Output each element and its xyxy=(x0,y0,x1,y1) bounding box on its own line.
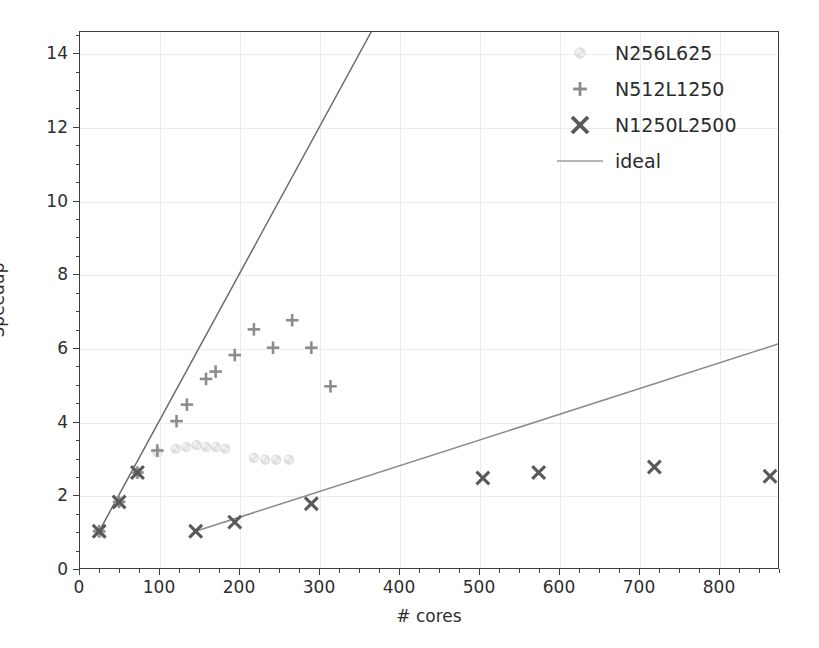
x-tick-major xyxy=(319,569,320,575)
legend-marker-plus xyxy=(545,76,615,102)
series-dot xyxy=(94,440,294,538)
x-tick-minor xyxy=(359,569,360,573)
x-tick-major xyxy=(719,569,720,575)
legend-label: N1250L2500 xyxy=(615,114,737,136)
y-tick-major xyxy=(73,348,79,349)
x-tick-label: 700 xyxy=(623,577,655,597)
y-axis-title: Speedup xyxy=(0,263,8,338)
y-tick-label: 4 xyxy=(28,412,68,432)
x-tick-minor xyxy=(519,569,520,573)
x-tick-label: 100 xyxy=(143,577,175,597)
chart-legend: N256L625N512L1250N1250L2500ideal xyxy=(545,40,737,174)
y-tick-major xyxy=(73,422,79,423)
y-tick-minor xyxy=(76,532,80,533)
y-tick-label: 6 xyxy=(28,338,68,358)
y-tick-minor xyxy=(76,403,80,404)
x-tick-minor xyxy=(699,569,700,573)
marker-plus xyxy=(200,373,213,386)
x-axis-title: # cores xyxy=(396,606,461,626)
x-tick-minor xyxy=(219,569,220,573)
marker-cross xyxy=(572,117,588,133)
x-tick-major xyxy=(559,569,560,575)
y-tick-major xyxy=(73,495,79,496)
marker-dot xyxy=(191,440,201,450)
y-tick-label: 10 xyxy=(28,191,68,211)
y-tick-major xyxy=(73,274,79,275)
marker-plus xyxy=(305,341,318,354)
y-tick-minor xyxy=(76,385,80,386)
x-tick-label: 500 xyxy=(463,577,495,597)
x-tick-minor xyxy=(759,569,760,573)
x-tick-minor xyxy=(779,569,780,573)
speedup-scaling-figure: 010020030040050060070080002468101214 # c… xyxy=(0,0,819,648)
legend-item: N256L625 xyxy=(545,40,737,66)
y-tick-minor xyxy=(76,219,80,220)
marker-dot xyxy=(201,442,211,452)
marker-cross xyxy=(532,466,545,479)
x-tick-label: 200 xyxy=(223,577,255,597)
x-tick-major xyxy=(159,569,160,575)
y-tick-minor xyxy=(76,35,80,36)
x-tick-minor xyxy=(199,569,200,573)
legend-item: N512L1250 xyxy=(545,76,737,102)
y-tick-minor xyxy=(76,366,80,367)
x-tick-major xyxy=(479,569,480,575)
x-tick-minor xyxy=(499,569,500,573)
marker-cross xyxy=(189,525,202,538)
y-tick-label: 14 xyxy=(28,43,68,63)
marker-plus xyxy=(228,349,241,362)
y-tick-label: 8 xyxy=(28,264,68,284)
x-tick-major xyxy=(399,569,400,575)
legend-marker-dot xyxy=(545,40,615,66)
marker-dot xyxy=(210,442,220,452)
legend-item: N1250L2500 xyxy=(545,112,737,138)
y-tick-major xyxy=(73,569,79,570)
marker-plus xyxy=(573,82,587,96)
legend-label: N512L1250 xyxy=(615,78,724,100)
marker-plus xyxy=(286,314,299,327)
marker-plus xyxy=(170,415,183,428)
x-tick-minor xyxy=(259,569,260,573)
x-tick-major xyxy=(639,569,640,575)
marker-dot xyxy=(271,455,281,465)
x-tick-minor xyxy=(619,569,620,573)
x-tick-minor xyxy=(299,569,300,573)
x-tick-minor xyxy=(579,569,580,573)
y-tick-minor xyxy=(76,256,80,257)
marker-dot xyxy=(284,455,294,465)
y-tick-major xyxy=(73,127,79,128)
x-tick-minor xyxy=(599,569,600,573)
x-tick-minor xyxy=(379,569,380,573)
x-tick-major xyxy=(79,569,80,575)
x-tick-label: 0 xyxy=(74,577,85,597)
ideal-line xyxy=(99,32,371,531)
legend-item: ideal xyxy=(545,148,737,174)
x-tick-label: 800 xyxy=(703,577,735,597)
marker-cross xyxy=(228,516,241,529)
x-tick-label: 400 xyxy=(383,577,415,597)
marker-plus xyxy=(209,365,222,378)
y-tick-minor xyxy=(76,164,80,165)
y-tick-minor xyxy=(76,440,80,441)
marker-dot xyxy=(260,455,270,465)
legend-label: N256L625 xyxy=(615,42,712,64)
y-tick-minor xyxy=(76,459,80,460)
marker-dot xyxy=(220,444,230,454)
y-tick-minor xyxy=(76,145,80,146)
marker-cross xyxy=(476,472,489,485)
marker-dot xyxy=(249,453,259,463)
y-tick-minor xyxy=(76,237,80,238)
y-tick-minor xyxy=(76,90,80,91)
marker-plus xyxy=(248,323,261,336)
y-tick-minor xyxy=(76,514,80,515)
marker-plus xyxy=(324,380,337,393)
legend-marker-cross xyxy=(545,112,615,138)
y-tick-minor xyxy=(76,293,80,294)
y-tick-major xyxy=(73,53,79,54)
marker-dot xyxy=(574,47,585,58)
marker-plus xyxy=(181,398,194,411)
series-plus xyxy=(93,314,337,538)
series-cross xyxy=(93,461,777,538)
marker-cross xyxy=(764,470,777,483)
y-tick-label: 2 xyxy=(28,485,68,505)
